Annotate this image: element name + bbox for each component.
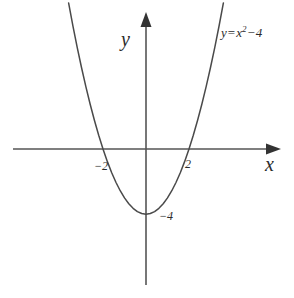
y-tick-label-neg4: −4	[159, 210, 173, 222]
y-axis-arrowhead	[141, 12, 152, 27]
equation-constant: 4	[256, 25, 263, 40]
x-tick-label-pos2: 2	[185, 158, 191, 170]
equation-lhs: y	[221, 25, 227, 40]
y-axis-label: y	[121, 29, 130, 49]
plot-canvas	[0, 0, 294, 298]
equation-label: y=x2−4	[221, 25, 262, 39]
equation-minus: −	[246, 25, 255, 40]
x-axis-label: x	[265, 154, 274, 174]
equation-equals: =	[227, 25, 236, 40]
x-tick-label-neg2: −2	[94, 160, 108, 172]
parabola-figure: y x −2 2 −4 y=x2−4	[0, 0, 294, 298]
axes-group	[13, 12, 281, 285]
